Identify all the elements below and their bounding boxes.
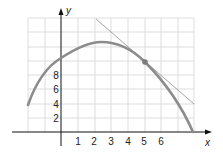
x-axis — [12, 130, 212, 135]
chart-canvas: 1 2 3 4 5 6 2 4 6 8 x y — [0, 0, 223, 154]
x-tick-4: 4 — [125, 136, 131, 147]
y-tick-4: 4 — [53, 99, 59, 110]
tangency-point — [142, 59, 148, 65]
y-axis-label: y — [65, 5, 72, 16]
y-axis — [59, 8, 64, 146]
y-axis-arrow-icon — [59, 8, 64, 15]
x-tick-5: 5 — [141, 136, 147, 147]
x-axis-arrow-icon — [205, 130, 212, 135]
y-tick-8: 8 — [53, 70, 59, 81]
x-tick-6: 6 — [158, 136, 164, 147]
x-tick-3: 3 — [108, 136, 114, 147]
y-tick-2: 2 — [53, 113, 59, 124]
x-axis-label: x — [204, 137, 211, 148]
x-tick-2: 2 — [91, 136, 97, 147]
x-tick-1: 1 — [75, 136, 81, 147]
y-tick-6: 6 — [53, 84, 59, 95]
